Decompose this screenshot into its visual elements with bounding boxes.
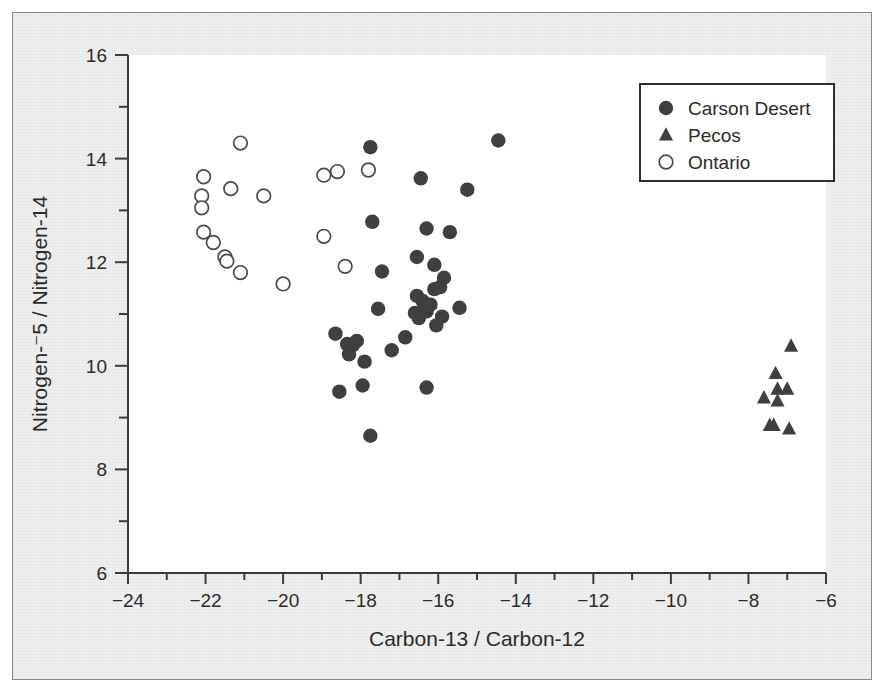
y-tick-label: 6 (96, 563, 107, 584)
x-tick-label: −24 (112, 590, 145, 611)
x-tick-label: −22 (189, 590, 221, 611)
data-point (362, 163, 376, 177)
data-point (433, 280, 447, 294)
data-point (234, 266, 248, 280)
x-axis-ticks: −24−22−20−18−16−14−12−10−8−6 (112, 573, 837, 611)
scatter-plot: −24−22−20−18−16−14−12−10−8−6 6810121416 … (0, 0, 885, 698)
data-point (355, 378, 369, 392)
data-point (423, 297, 437, 311)
data-point (375, 264, 389, 278)
data-point (331, 165, 345, 179)
x-tick-label: −8 (738, 590, 760, 611)
data-point (427, 258, 441, 272)
x-tick-label: −12 (577, 590, 609, 611)
data-point (328, 326, 342, 340)
data-point (363, 140, 377, 154)
data-point (342, 347, 356, 361)
data-point (195, 201, 209, 215)
data-point (338, 260, 352, 274)
x-tick-label: −6 (815, 590, 837, 611)
y-tick-label: 10 (86, 356, 107, 377)
data-point (350, 334, 364, 348)
data-point (363, 429, 377, 443)
data-point (257, 189, 271, 203)
y-axis-ticks: 6810121416 (86, 45, 128, 584)
data-point (414, 171, 428, 185)
data-point (220, 254, 234, 268)
y-tick-label: 14 (86, 149, 108, 170)
y-tick-label: 8 (96, 459, 107, 480)
data-point (443, 225, 457, 239)
legend-label: Ontario (688, 152, 750, 173)
legend: Carson DesertPecosOntario (640, 84, 834, 181)
data-point (365, 215, 379, 229)
x-tick-label: −20 (267, 590, 299, 611)
legend-label: Carson Desert (688, 98, 811, 119)
data-point (317, 230, 331, 244)
data-point (410, 250, 424, 264)
data-point (224, 182, 238, 196)
legend-marker (659, 155, 673, 169)
data-point (384, 343, 398, 357)
legend-label: Pecos (688, 125, 741, 146)
data-point (491, 133, 505, 147)
data-point (419, 221, 433, 235)
data-point (419, 380, 433, 394)
data-point (435, 309, 449, 323)
y-tick-label: 16 (86, 45, 107, 66)
data-point (197, 170, 211, 184)
data-point (276, 277, 290, 291)
data-point (460, 182, 474, 196)
figure-root: −24−22−20−18−16−14−12−10−8−6 6810121416 … (0, 0, 885, 698)
data-point (452, 301, 466, 315)
legend-marker (659, 101, 673, 115)
data-point (234, 136, 248, 150)
data-point (398, 330, 412, 344)
x-tick-label: −14 (500, 590, 533, 611)
data-point (332, 385, 346, 399)
x-axis-title: Carbon-13 / Carbon-12 (369, 627, 585, 650)
y-tick-label: 12 (86, 252, 107, 273)
x-tick-label: −18 (345, 590, 377, 611)
data-point (371, 302, 385, 316)
y-axis-title: Nitrogen-⁻5 / Nitrogen-14 (28, 196, 51, 433)
x-tick-label: −16 (422, 590, 454, 611)
data-point (207, 236, 221, 250)
x-tick-label: −10 (655, 590, 687, 611)
data-point (317, 168, 331, 182)
data-point (357, 354, 371, 368)
data-point (412, 311, 426, 325)
